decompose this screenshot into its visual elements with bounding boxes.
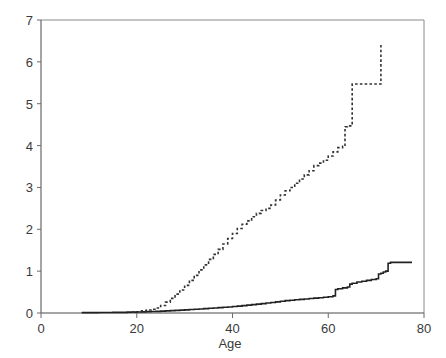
x-tick-label: 40 [225,321,239,336]
y-tick-label: 6 [26,55,33,70]
axes [41,20,424,313]
line-chart-svg: 01234567 020406080 Age [0,0,446,358]
y-tick-label: 3 [26,180,33,195]
y-tick-label: 7 [26,13,33,28]
chart-figure: 01234567 020406080 Age [0,0,446,358]
x-axis-ticks: 020406080 [37,313,431,336]
x-tick-label: 80 [417,321,431,336]
y-axis-ticks: 01234567 [26,13,41,321]
x-tick-label: 60 [321,321,335,336]
y-tick-label: 2 [26,222,33,237]
series-solid-curve [82,262,412,312]
x-axis-title: Age [218,336,241,351]
x-tick-label: 20 [130,321,144,336]
y-tick-label: 1 [26,264,33,279]
y-tick-label: 0 [26,306,33,321]
data-series-group [82,45,412,312]
series-dashed-curve [132,45,381,312]
x-tick-label: 0 [37,321,44,336]
y-tick-label: 5 [26,97,33,112]
y-tick-label: 4 [26,139,33,154]
plot-frame [41,20,424,313]
